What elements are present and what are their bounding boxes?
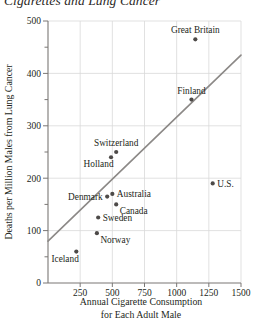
y-tick-label: 0 xyxy=(36,278,41,288)
data-point-label: U.S. xyxy=(217,179,234,189)
data-point-marker xyxy=(95,231,99,235)
y-tick-label: 500 xyxy=(27,16,42,26)
data-point-label: Finland xyxy=(177,86,206,96)
scatter-plot: 250500750100012501500 0100200300400500 I… xyxy=(0,0,254,326)
data-point-marker xyxy=(105,194,109,198)
data-point-marker xyxy=(96,215,100,219)
y-tick-label: 400 xyxy=(27,69,42,79)
y-tick-labels: 0100200300400500 xyxy=(27,16,42,288)
data-point-marker xyxy=(114,202,118,206)
y-axis-title: Deaths per Million Males from Lung Cance… xyxy=(3,64,14,240)
data-point-label: Canada xyxy=(120,206,148,216)
data-point-marker xyxy=(114,150,118,154)
y-tick-label: 100 xyxy=(27,226,42,236)
gridlines xyxy=(48,21,241,283)
data-point-marker xyxy=(189,98,193,102)
data-point-label: Denmark xyxy=(68,192,103,202)
data-point-label: Norway xyxy=(100,235,130,245)
data-point-label: Great Britain xyxy=(171,25,220,35)
data-point-label: Switzerland xyxy=(94,138,139,148)
data-point-label: Holland xyxy=(84,159,114,169)
data-point-marker xyxy=(193,37,197,41)
x-tick-label: 1500 xyxy=(232,288,251,298)
data-point-label: Australia xyxy=(117,189,151,199)
x-axis-title-line1: Annual Cigarette Consumption xyxy=(80,296,203,307)
x-axis-title-line2: for Each Adult Male xyxy=(101,309,182,320)
data-point-marker xyxy=(110,192,114,196)
y-tick-label: 200 xyxy=(27,174,42,184)
chart-figure: Cigarettes and Lung Cancer 2505007501000… xyxy=(0,0,254,326)
y-tick-label: 300 xyxy=(27,121,42,131)
data-point-marker xyxy=(211,181,215,185)
data-points: IcelandNorwaySwedenDenmarkAustraliaCanad… xyxy=(51,25,233,263)
data-point-label: Iceland xyxy=(51,254,79,264)
axis-ticks xyxy=(43,21,241,287)
